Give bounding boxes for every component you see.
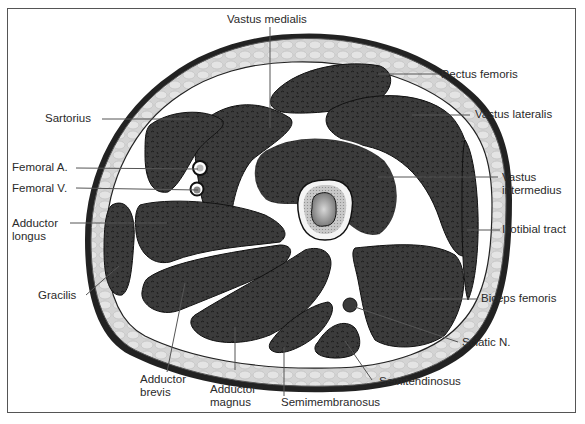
label-vastus-lateralis: Vastus lateralis	[475, 108, 552, 121]
label-gracilis: Gracilis	[38, 289, 76, 302]
label-semitendinosus: Semitendinosus	[379, 375, 461, 388]
femur-marrow	[312, 193, 337, 227]
gracilis-shape	[104, 203, 134, 295]
label-femoral-vein: Femoral V.	[12, 182, 67, 195]
label-adductor-magnus: Adductor magnus	[210, 383, 256, 409]
thigh-cross-section	[0, 0, 585, 424]
label-sartorius: Sartorius	[45, 112, 91, 125]
label-adductor-brevis: Adductor brevis	[140, 373, 186, 399]
label-vastus-intermedius: Vastus intermedius	[502, 171, 561, 197]
label-iliotibial-tract: Iliotibial tract	[502, 223, 566, 236]
label-vastus-medialis: Vastus medialis	[227, 13, 307, 26]
sciatic-nerve	[343, 298, 357, 312]
label-sciatic-nerve: Sciatic N.	[462, 336, 511, 349]
label-semimembranosus: Semimembranosus	[281, 396, 380, 409]
label-biceps-femoris: Biceps femoris	[481, 292, 556, 305]
label-adductor-longus: Adductor longus	[12, 217, 58, 243]
label-rectus-femoris: Rectus femoris	[441, 68, 518, 81]
label-femoral-artery: Femoral A.	[12, 161, 68, 174]
